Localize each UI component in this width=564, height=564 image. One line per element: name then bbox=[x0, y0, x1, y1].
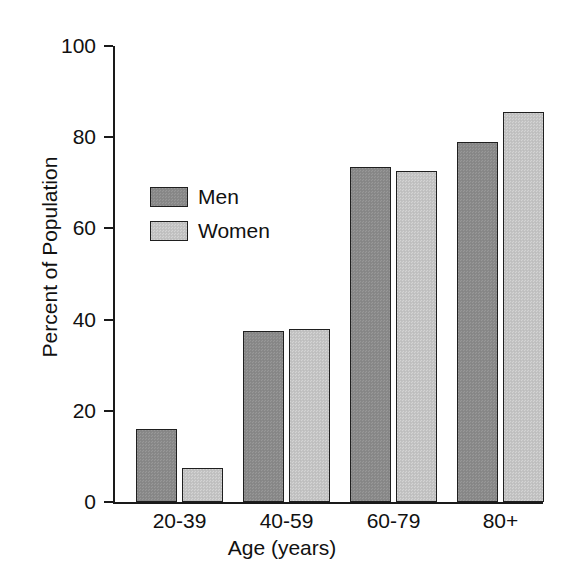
y-tick-label-100: 100 bbox=[44, 35, 96, 56]
legend-label-men: Men bbox=[198, 185, 239, 209]
bar-chart-figure: 020406080100 20-3940-5960-7980+ Age (yea… bbox=[0, 0, 564, 564]
y-axis-line bbox=[113, 46, 115, 504]
x-tick-label-60-79: 60-79 bbox=[334, 508, 454, 533]
x-tick-label-80+: 80+ bbox=[441, 508, 561, 533]
legend-swatch-men-icon bbox=[150, 187, 188, 207]
bar-women-40-59 bbox=[289, 329, 330, 502]
x-tick-label-40-59: 40-59 bbox=[227, 508, 347, 533]
bar-women-80+ bbox=[503, 112, 544, 502]
y-tick-label-0: 0 bbox=[44, 491, 96, 512]
legend-item-women: Women bbox=[150, 217, 270, 245]
y-axis-title: Percent of Population bbox=[38, 137, 62, 377]
bar-men-40-59 bbox=[243, 331, 284, 502]
bar-women-60-79 bbox=[396, 171, 437, 502]
y-tick-100 bbox=[104, 45, 113, 47]
x-axis-line bbox=[113, 502, 543, 504]
chart-legend: Men Women bbox=[150, 183, 270, 251]
x-axis-title: Age (years) bbox=[0, 536, 564, 560]
legend-label-women: Women bbox=[198, 219, 270, 243]
x-tick-label-20-39: 20-39 bbox=[120, 508, 240, 533]
y-tick-0 bbox=[104, 501, 113, 503]
y-tick-label-20: 20 bbox=[44, 400, 96, 421]
legend-swatch-women-icon bbox=[150, 221, 188, 241]
bar-men-80+ bbox=[457, 142, 498, 502]
y-tick-60 bbox=[104, 227, 113, 229]
legend-item-men: Men bbox=[150, 183, 270, 211]
bar-men-60-79 bbox=[350, 167, 391, 502]
y-tick-20 bbox=[104, 410, 113, 412]
bar-women-20-39 bbox=[182, 468, 223, 502]
y-tick-80 bbox=[104, 136, 113, 138]
y-tick-40 bbox=[104, 319, 113, 321]
bar-men-20-39 bbox=[136, 429, 177, 502]
